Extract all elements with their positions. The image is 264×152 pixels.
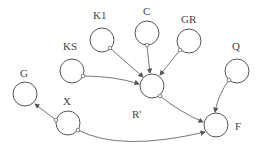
port-c xyxy=(145,43,149,47)
edge-gr-r xyxy=(160,50,180,75)
port-ks xyxy=(81,74,85,78)
label-f: F xyxy=(235,120,241,132)
port-x-g xyxy=(54,118,58,122)
node-g xyxy=(13,82,37,106)
port-q xyxy=(227,78,231,82)
edge-c-r xyxy=(147,46,150,73)
edge-ks-r xyxy=(83,76,139,84)
edge-k1-r xyxy=(110,48,143,77)
label-q: Q xyxy=(232,40,240,52)
port-gr xyxy=(178,48,182,52)
edge-r-f xyxy=(160,96,203,122)
label-ks: KS xyxy=(63,40,77,52)
label-r: R' xyxy=(132,108,141,120)
node-c xyxy=(135,21,159,45)
influence-diagram: K1 C GR KS Q G R' X F xyxy=(0,0,264,152)
port-r xyxy=(158,94,162,98)
label-k1: K1 xyxy=(93,9,106,21)
port-x-f xyxy=(76,128,80,132)
label-g: G xyxy=(20,67,28,79)
node-f xyxy=(204,113,228,137)
edge-x-f xyxy=(78,130,205,142)
node-ks xyxy=(60,59,84,83)
edge-x-g xyxy=(35,104,56,120)
edge-q-f xyxy=(215,80,229,112)
label-c: C xyxy=(143,5,150,17)
label-x: X xyxy=(63,95,71,107)
port-k1 xyxy=(108,46,112,50)
label-gr: GR xyxy=(181,13,197,25)
